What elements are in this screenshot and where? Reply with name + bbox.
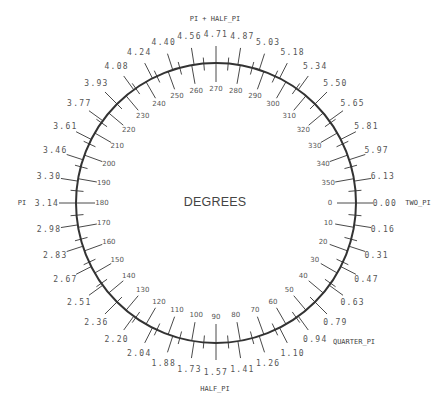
degree-tick	[330, 155, 348, 162]
radian-label: 3.14	[35, 199, 59, 208]
radian-label: 5.81	[354, 122, 378, 131]
radian-tick	[329, 111, 343, 121]
radian-label: 1.57	[204, 368, 228, 377]
degree-label: 220	[122, 126, 135, 134]
degree-tick	[84, 155, 102, 162]
degree-label: 50	[285, 286, 294, 294]
degree-tick	[294, 296, 306, 311]
degree-tick	[168, 317, 175, 335]
degree-label: 150	[111, 256, 124, 264]
radian-tick	[354, 178, 371, 181]
degree-label: 180	[95, 199, 108, 207]
named-label-pi: PI	[18, 199, 26, 207]
radian-label: 0.31	[364, 251, 388, 260]
radian-tick	[341, 132, 356, 140]
radian-label: 2.36	[84, 318, 108, 327]
degree-label: 310	[283, 112, 296, 120]
radian-label: 5.34	[303, 62, 327, 71]
radian-tick	[145, 328, 153, 343]
radian-tick	[238, 48, 241, 65]
radian-label: 4.56	[177, 32, 201, 41]
radian-tick	[167, 54, 172, 70]
radian-tick	[349, 154, 365, 159]
degree-label: 190	[97, 179, 110, 187]
radian-tick	[61, 225, 78, 228]
radian-label: 0.47	[354, 275, 378, 284]
radian-label: 0.94	[303, 335, 327, 344]
degree-label: 70	[251, 306, 260, 314]
degree-label: 280	[229, 87, 242, 95]
degree-tick	[330, 244, 348, 251]
degree-label: 260	[190, 87, 203, 95]
degree-label: 240	[152, 100, 165, 108]
radian-label: 0.16	[371, 225, 395, 234]
degree-label: 120	[152, 298, 165, 306]
degree-label: 130	[136, 286, 149, 294]
radian-label: 5.18	[280, 48, 304, 57]
radian-label: 1.73	[177, 365, 201, 374]
degree-tick	[309, 281, 324, 293]
degree-tick	[237, 322, 240, 341]
degree-tick	[109, 281, 124, 293]
degree-label: 80	[231, 311, 240, 319]
radian-tick	[280, 328, 288, 343]
degree-label: 20	[319, 238, 328, 246]
degree-label: 250	[170, 92, 183, 100]
degree-label: 0	[328, 199, 332, 207]
radian-tick	[315, 92, 327, 104]
radian-tick	[298, 316, 308, 330]
degree-label: 100	[190, 311, 203, 319]
degree-tick	[257, 317, 264, 335]
degree-tick	[335, 179, 354, 182]
radian-tick	[67, 246, 83, 251]
radian-tick	[167, 336, 172, 352]
degree-tick	[309, 113, 324, 125]
degree-tick	[109, 113, 124, 125]
dial-canvas: 0102030405060708090100110120130140150160…	[0, 0, 439, 407]
degree-tick	[84, 244, 102, 251]
degree-tick	[168, 71, 175, 89]
degree-tick	[237, 65, 240, 84]
radian-label: 5.03	[256, 38, 280, 47]
radian-tick	[280, 63, 288, 78]
radian-label: 2.20	[104, 335, 128, 344]
degree-tick	[95, 264, 111, 274]
radian-label: 5.65	[340, 99, 364, 108]
radian-label: 0.00	[373, 199, 397, 208]
radian-tick	[105, 92, 117, 104]
degree-tick	[126, 296, 138, 311]
radian-tick	[76, 267, 91, 275]
degree-label: 290	[248, 92, 261, 100]
degree-tick	[146, 308, 156, 324]
radian-tick	[89, 111, 103, 121]
radian-tick	[124, 76, 134, 90]
radian-label: 4.24	[127, 48, 151, 57]
radian-tick	[259, 54, 264, 70]
degree-label: 210	[111, 142, 124, 150]
degree-tick	[78, 179, 97, 182]
degree-label: 340	[316, 160, 329, 168]
degree-label: 30	[310, 256, 319, 264]
radian-tick	[191, 48, 194, 65]
radian-label: 2.04	[127, 349, 151, 358]
degree-label: 10	[324, 219, 333, 227]
named-label-quarter-pi: QUARTER_PI	[333, 338, 375, 346]
radian-label: 4.40	[152, 38, 176, 47]
degree-label: 350	[322, 179, 335, 187]
angle-dial-diagram: 0102030405060708090100110120130140150160…	[0, 0, 439, 407]
degree-label: 110	[170, 306, 183, 314]
radian-label: 3.61	[53, 122, 77, 131]
radian-tick	[124, 316, 134, 330]
radian-label: 2.51	[67, 298, 91, 307]
radian-label: 4.08	[104, 62, 128, 71]
degree-label: 230	[136, 112, 149, 120]
degree-tick	[95, 133, 111, 143]
degree-label: 40	[299, 272, 308, 280]
radian-label: 3.77	[67, 99, 91, 108]
degree-tick	[321, 133, 337, 143]
degree-tick	[192, 65, 195, 84]
radian-label: 5.97	[364, 146, 388, 155]
radian-label: 5.50	[323, 79, 347, 88]
radian-label: 1.41	[230, 365, 254, 374]
named-label-pi-plus-half-pi: PI + HALF_PI	[190, 15, 241, 23]
